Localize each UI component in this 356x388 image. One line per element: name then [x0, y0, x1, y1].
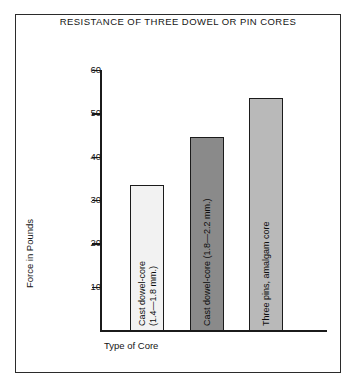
y-axis-tick-label: 20: [75, 237, 101, 248]
bar-label: Cast dowel-core(1.4—1.8 mm.): [137, 261, 158, 326]
y-axis-tick-label: 40: [75, 151, 101, 162]
bar-label-line: Cast dowel-core: [137, 261, 147, 326]
bar-label: Cast dowel-core (1.8—2.2 mm.): [202, 198, 213, 326]
chart-title: RESISTANCE OF THREE DOWEL OR PIN CORES: [0, 16, 356, 27]
bar[interactable]: Three pins, amalgam core: [249, 98, 283, 331]
bar[interactable]: Cast dowel-core (1.8—2.2 mm.): [190, 137, 224, 331]
bar-label-line: (1.4—1.8 mm.): [147, 261, 158, 326]
bar-label-line: Cast dowel-core (1.8—2.2 mm.): [202, 198, 212, 326]
y-axis-tick-label: 10: [75, 281, 101, 292]
y-axis-tick-label: 50: [75, 107, 101, 118]
bar-label-line: Three pins, amalgam core: [261, 221, 271, 326]
y-axis-title: Force in Pounds: [24, 209, 35, 299]
y-axis-tick-label: 30: [75, 194, 101, 205]
y-axis-tick-label: 60: [75, 64, 101, 75]
chart-frame: [15, 14, 341, 373]
bar[interactable]: Cast dowel-core(1.4—1.8 mm.): [130, 185, 164, 331]
bar-label: Three pins, amalgam core: [261, 221, 272, 326]
x-axis-title: Type of Core: [104, 340, 158, 351]
